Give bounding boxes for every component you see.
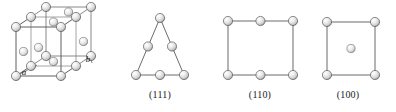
plane-111-panel — [131, 13, 188, 79]
lattice-label-b: b — [86, 54, 91, 64]
lattice-label-a: a — [22, 67, 27, 77]
caption-plane-111: (111) — [149, 89, 171, 100]
triangle-atoms — [131, 13, 188, 79]
square-atoms — [322, 17, 379, 79]
rectangle-edges — [228, 21, 293, 75]
plane-100-panel — [322, 17, 379, 79]
caption-plane-110: (110) — [249, 89, 271, 100]
plane-110-panel — [223, 16, 297, 79]
rectangle-atoms — [223, 16, 297, 79]
caption-plane-100: (100) — [337, 89, 360, 100]
